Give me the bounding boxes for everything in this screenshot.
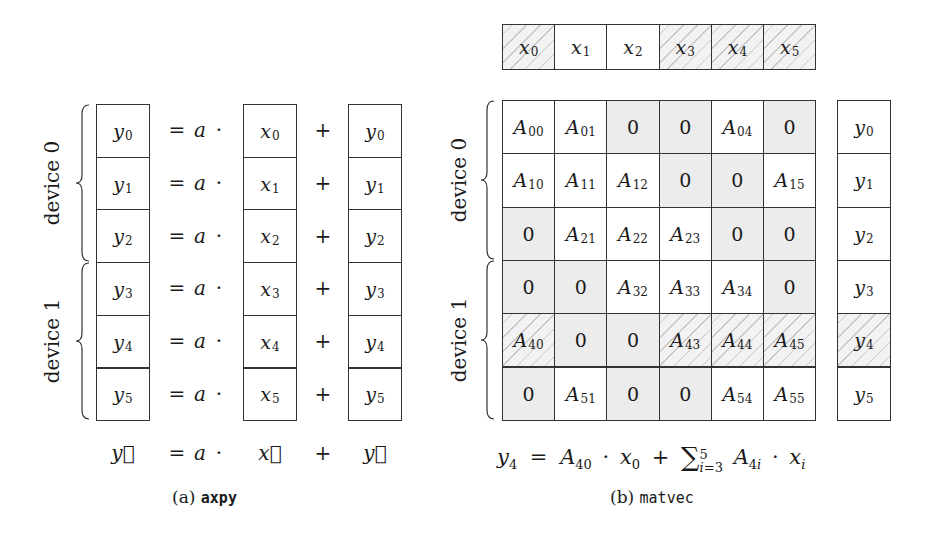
matrix-cell: A33 (659, 260, 712, 314)
vector-y: y⃗ (96, 433, 150, 473)
equals-sign: = (166, 209, 188, 262)
plus-sign: + (313, 157, 333, 210)
scalar-a: a (191, 315, 209, 368)
dot-operator: · (212, 104, 226, 157)
equals-sign: = (166, 368, 188, 421)
x-vector-cell: x0 (502, 24, 555, 70)
matrix-cell: A01 (554, 100, 607, 154)
y-result-cell: y3 (837, 260, 891, 314)
x-vector-cell: x1 (554, 24, 607, 70)
matrix-cell: 0 (763, 260, 816, 314)
axpy-y-cell: y1 (96, 157, 150, 211)
device-1-brace (75, 262, 91, 420)
matrix-cell: 0 (659, 153, 712, 207)
matrix-cell: A11 (554, 153, 607, 207)
device-1-label: device 1 (447, 280, 471, 400)
equals-sign: = (166, 262, 188, 315)
matrix-cell: A43 (659, 313, 712, 367)
y-result-cell: y1 (837, 153, 891, 207)
device-1-brace (480, 260, 496, 420)
matrix-cell: A00 (502, 100, 555, 154)
axpy-y-input-cell: y4 (348, 315, 402, 369)
matrix-cell: 0 (763, 100, 816, 154)
matrix-cell: 0 (659, 367, 712, 421)
matrix-cell: 0 (554, 260, 607, 314)
scalar-a: a (191, 368, 209, 421)
matrix-cell: 0 (606, 367, 659, 421)
y-result-cell: y0 (837, 100, 891, 154)
x-vector-cell: x2 (606, 24, 659, 70)
sum-limits: 5i=3 (700, 448, 723, 474)
dot-operator: · (212, 315, 226, 368)
axpy-y-input-cell: y2 (348, 209, 402, 263)
device-0-label: device 0 (40, 123, 64, 243)
matrix-cell: 0 (554, 313, 607, 367)
vector-y: y⃗ (348, 433, 402, 473)
scalar-a: a (191, 433, 209, 473)
scalar-a: a (191, 157, 209, 210)
axpy-x-cell: x1 (243, 157, 297, 211)
x-vector-cell: x3 (659, 24, 712, 70)
axpy-x-cell: x4 (243, 315, 297, 369)
matrix-cell: A12 (606, 153, 659, 207)
equals-sign: = (166, 157, 188, 210)
matrix-cell: A34 (711, 260, 764, 314)
device-0-brace (480, 100, 496, 260)
dot-operator: · (212, 157, 226, 210)
matrix-cell: 0 (502, 367, 555, 421)
plus-sign: + (313, 315, 333, 368)
matrix-cell: A55 (763, 367, 816, 421)
plus-sign: + (313, 209, 333, 262)
matrix-cell: A10 (502, 153, 555, 207)
matrix-cell: A44 (711, 313, 764, 367)
matrix-cell: A45 (763, 313, 816, 367)
axpy-caption: (a) axpy (172, 487, 237, 507)
axpy-y-input-cell: y1 (348, 157, 402, 211)
plus-sign: + (313, 104, 333, 157)
axpy-y-cell: y5 (96, 368, 150, 422)
equals-sign: = (166, 315, 188, 368)
equals-sign: = (166, 104, 188, 157)
x-vector-cell: x4 (711, 24, 764, 70)
device-1-label: device 1 (40, 281, 64, 401)
matrix-cell: A04 (711, 100, 764, 154)
matrix-cell: A40 (502, 313, 555, 367)
scalar-a: a (191, 104, 209, 157)
matrix-cell: 0 (502, 207, 555, 261)
scalar-a: a (191, 209, 209, 262)
device-0-label: device 0 (447, 120, 471, 240)
matrix-cell: A21 (554, 207, 607, 261)
matrix-cell: 0 (502, 260, 555, 314)
matrix-cell: 0 (711, 153, 764, 207)
axpy-x-cell: x3 (243, 262, 297, 316)
plus-sign: + (313, 368, 333, 421)
y-result-cell: y5 (837, 367, 891, 421)
axpy-x-cell: x5 (243, 368, 297, 422)
scalar-a: a (191, 262, 209, 315)
dot-operator: · (212, 368, 226, 421)
x-vector-cell: x5 (763, 24, 816, 70)
matrix-cell: 0 (606, 100, 659, 154)
plus-sign: + (313, 433, 333, 473)
matrix-cell: 0 (606, 313, 659, 367)
matrix-cell: A51 (554, 367, 607, 421)
matrix-cell: A32 (606, 260, 659, 314)
matvec-formula: y4 = A40 · x0 + ∑5i=3 A4i · xi (497, 440, 805, 472)
plus-sign: + (313, 262, 333, 315)
axpy-x-cell: x2 (243, 209, 297, 263)
dot-operator: · (212, 433, 226, 473)
matrix-cell: A54 (711, 367, 764, 421)
matrix-cell: 0 (711, 207, 764, 261)
axpy-y-cell: y2 (96, 209, 150, 263)
axpy-y-input-cell: y5 (348, 368, 402, 422)
axpy-y-cell: y4 (96, 315, 150, 369)
matrix-cell: A22 (606, 207, 659, 261)
axpy-y-input-cell: y0 (348, 104, 402, 158)
matrix-cell: A23 (659, 207, 712, 261)
y-result-cell: y2 (837, 207, 891, 261)
matrix-cell: 0 (763, 207, 816, 261)
axpy-y-input-cell: y3 (348, 262, 402, 316)
sum-symbol: ∑ (681, 442, 700, 472)
dot-operator: · (212, 209, 226, 262)
matrix-cell: 0 (659, 100, 712, 154)
